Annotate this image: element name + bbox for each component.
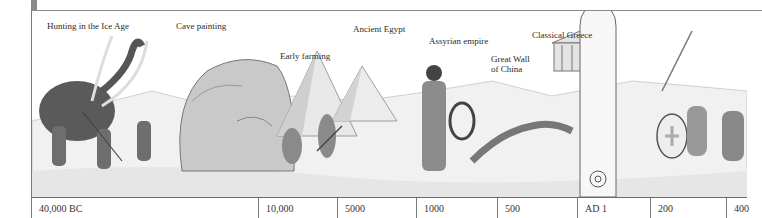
caption-ancient-egypt: Ancient Egypt [353,24,405,34]
caption-assyrian-empire: Assyrian empire [429,36,488,46]
timeline-tick-label: 10,000 [266,203,294,214]
timeline-tick: 5000 [337,198,338,218]
timeline-tick: 40,000 BC [31,198,32,218]
timeline-tick-label: 5000 [345,203,365,214]
timeline-tick-label: 400 [734,203,749,214]
caption-ice-age: Hunting in the Ice Age [47,21,129,31]
caption-great-wall-line2: of China [491,64,530,74]
timeline-tick-label: AD 1 [585,203,607,214]
timeline-tick: 1000 [416,198,417,218]
caption-early-farming: Early farming [280,51,330,61]
cave-rock-icon [180,60,295,171]
history-illustration [32,11,747,197]
timeline-tick-label: 40,000 BC [39,203,82,214]
timeline-tick: 10,000 [258,198,259,218]
caption-great-wall-line1: Great Wall [491,54,530,64]
corner-tab [31,0,37,10]
timeline-tick: 500 [497,198,498,218]
timeline-tick: 400 [726,198,727,218]
caption-cave-painting: Cave painting [176,21,226,31]
timeline-tick: 200 [650,198,651,218]
timeline-tick-label: 500 [505,203,520,214]
caption-great-wall: Great Wall of China [491,54,530,74]
timeline-tick-label: 200 [658,203,673,214]
caption-classical-greece: Classical Greece [532,30,592,40]
scene-drawing [32,11,747,197]
timeline-axis: 40,000 BC 10,000 5000 1000 500 AD 1 200 … [31,197,747,218]
timeline-tick: AD 1 [577,198,578,218]
timeline-tick-label: 1000 [424,203,444,214]
